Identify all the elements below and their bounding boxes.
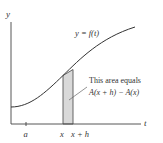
curve-label: y = f(t): [74, 28, 99, 38]
annotation-line-1: This area equals: [89, 76, 141, 85]
t-axis-label: t: [144, 118, 147, 128]
annotation-line-2: A(x + h) − A(x): [88, 88, 140, 97]
tick-label-x-plus-h: x + h: [70, 129, 89, 139]
tick-label-a: a: [24, 129, 28, 139]
shaded-area-strip: [63, 70, 73, 125]
tick-label-x: x: [59, 129, 64, 139]
area-diagram: y t y = f(t) a x x + h This area equals …: [0, 0, 163, 143]
y-axis-label: y: [5, 9, 10, 19]
